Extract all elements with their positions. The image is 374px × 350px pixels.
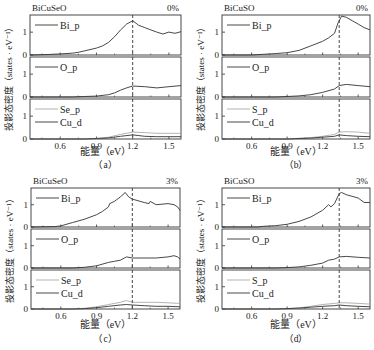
panel-3: 01S_pCu_d (215, 270, 371, 314)
y-axis-label: 投影态密度（states · eV⁻¹） (195, 194, 206, 303)
y-tick-label: 1 (215, 27, 220, 37)
legend-label: Bi_p (252, 193, 271, 204)
subfigure-b: BiCuSO0%01Bi_p01O_p01S_pCu_d0.60.91.21.5… (195, 3, 370, 170)
y-tick-label: 1 (215, 282, 220, 292)
legend-label: Se_p (61, 275, 81, 286)
y-tick-label: 0 (215, 304, 220, 314)
y-tick-label: 1 (23, 111, 28, 121)
y-tick-label: 1 (215, 200, 220, 210)
y-axis-label: 投影态密度（states · eV⁻¹） (4, 194, 15, 303)
material-title: BiCuSeO (33, 176, 68, 186)
pdos-figure: BiCuSeO0%01Bi_p01O_p01Se_pCu_d0.60.91.21… (0, 0, 374, 350)
y-tick-label: 0 (23, 50, 28, 60)
x-tick-label: 0.6 (55, 311, 67, 321)
y-tick-label: 1 (215, 111, 220, 121)
x-tick-label: 0.6 (246, 141, 258, 151)
y-tick-label: 0 (215, 50, 220, 60)
strain-label: 3% (356, 176, 369, 186)
y-tick-label: 1 (215, 241, 220, 251)
panel-3: 01Se_pCu_d (24, 270, 181, 314)
legend-label: Cu_d (61, 288, 83, 299)
panel-1: 01Bi_p (215, 188, 371, 232)
x-tick-label: 0.6 (246, 311, 258, 321)
subfigure-caption: （b） (284, 159, 309, 170)
y-tick-label: 0 (215, 222, 220, 232)
strain-label: 3% (166, 176, 179, 186)
x-tick-label: 1.5 (353, 311, 365, 321)
series-se-p (31, 301, 180, 310)
x-axis-label: 能量（eV） (80, 318, 132, 330)
subfigure-a: BiCuSeO0%01Bi_p01O_p01Se_pCu_d0.60.91.21… (3, 3, 181, 170)
y-tick-label: 0 (215, 134, 220, 144)
x-axis-label: 能量（eV） (80, 145, 132, 157)
legend-label: O_p (252, 234, 269, 245)
y-tick-label: 1 (24, 200, 29, 210)
y-tick-label: 1 (215, 69, 220, 79)
y-tick-label: 1 (24, 241, 29, 251)
strain-label: 0% (356, 3, 369, 13)
legend-label: Cu_d (252, 288, 274, 299)
legend-label: O_p (61, 234, 78, 245)
legend-label: S_p (252, 104, 268, 115)
panel-2: 01O_p (215, 57, 371, 102)
series-bi-p (30, 21, 181, 55)
panel-1: 01Bi_p (24, 188, 181, 232)
y-tick-label: 1 (23, 27, 28, 37)
panel-1: 01Bi_p (23, 15, 182, 60)
x-tick-label: 1.5 (163, 141, 175, 151)
legend-label: Cu_d (252, 117, 274, 128)
subfigure-c: BiCuSeO3%01Bi_p01O_p01Se_pCu_d0.60.91.21… (4, 176, 180, 344)
x-tick-label: 1.5 (353, 141, 365, 151)
y-tick-label: 1 (24, 282, 29, 292)
y-tick-label: 1 (23, 69, 28, 79)
material-title: BiCuSO (224, 3, 255, 13)
y-tick-label: 0 (215, 92, 220, 102)
y-tick-label: 0 (23, 134, 28, 144)
x-axis-label: 能量（eV） (270, 318, 322, 330)
series-o-p (30, 86, 181, 97)
legend-label: O_p (60, 62, 77, 73)
subfigure-caption: （d） (284, 333, 309, 344)
subfigure-d: BiCuSO3%01Bi_p01O_p01S_pCu_d0.60.91.21.5… (195, 176, 370, 344)
subfigure-caption: （c） (93, 333, 117, 344)
y-tick-label: 0 (215, 263, 220, 273)
panel-2: 01O_p (215, 229, 371, 273)
series-cu-d (30, 135, 181, 139)
material-title: BiCuSeO (32, 3, 67, 13)
series-bi-p (222, 16, 370, 55)
panel-1: 01Bi_p (215, 15, 371, 60)
legend-label: Cu_d (60, 117, 82, 128)
legend-label: S_p (252, 275, 268, 286)
series-o-p (222, 256, 370, 268)
subfigure-caption: （a） (93, 159, 117, 170)
y-tick-label: 0 (23, 92, 28, 102)
strain-label: 0% (167, 3, 180, 13)
y-tick-label: 0 (24, 304, 29, 314)
series-o-p (222, 84, 370, 97)
panel-3: 01Se_pCu_d (23, 99, 182, 144)
y-tick-label: 0 (24, 222, 29, 232)
x-tick-label: 0.6 (55, 141, 67, 151)
panel-2: 01O_p (24, 229, 181, 273)
legend-label: Bi_p (252, 20, 271, 31)
x-axis-label: 能量（eV） (270, 145, 322, 157)
y-axis-label: 投影态密度（states · eV⁻¹） (3, 23, 14, 132)
legend-label: Bi_p (61, 193, 80, 204)
series-cu-d (222, 305, 370, 309)
panel-2: 01O_p (23, 57, 182, 102)
legend-label: O_p (252, 62, 269, 73)
panel-3: 01S_pCu_d (215, 99, 371, 144)
y-axis-label: 投影态密度（states · eV⁻¹） (195, 23, 206, 132)
x-tick-label: 1.5 (162, 311, 174, 321)
series-o-p (31, 256, 180, 268)
series-cu-d (222, 135, 370, 139)
legend-label: Se_p (60, 104, 80, 115)
material-title: BiCuSO (224, 176, 255, 186)
y-tick-label: 0 (24, 263, 29, 273)
legend-label: Bi_p (60, 20, 79, 31)
